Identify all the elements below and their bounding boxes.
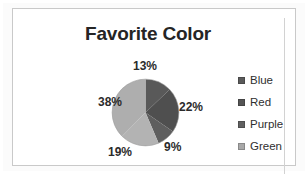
legend-item-label: Blue <box>250 74 273 86</box>
chart-title: Favorite Color <box>43 23 253 45</box>
chart-image: Favorite Color 13% 22% 9% 19% 38% Blue <box>0 0 308 174</box>
pie-data-label-other: 38% <box>98 95 122 109</box>
pie-svg <box>110 77 181 148</box>
legend-swatch-icon <box>238 121 245 128</box>
legend-swatch-icon <box>238 99 245 106</box>
chart-frame: Favorite Color 13% 22% 9% 19% 38% Blue <box>12 8 296 166</box>
pie-data-label-red: 22% <box>179 100 203 114</box>
pie-data-label-blue: 13% <box>133 59 157 73</box>
legend-item-red[interactable]: Red <box>238 91 282 113</box>
chart-legend: Blue Red Purple Green <box>238 69 282 157</box>
legend-item-label: Purple <box>250 118 283 130</box>
legend-item-blue[interactable]: Blue <box>238 69 282 91</box>
legend-item-green[interactable]: Green <box>238 135 282 157</box>
legend-item-label: Red <box>250 96 271 108</box>
legend-swatch-icon <box>238 77 245 84</box>
legend-divider <box>284 18 285 174</box>
legend-item-purple[interactable]: Purple <box>238 113 282 135</box>
pie-chart <box>110 77 181 148</box>
pie-data-label-purple: 9% <box>164 140 181 154</box>
legend-swatch-icon <box>238 143 245 150</box>
legend-item-label: Green <box>250 140 282 152</box>
pie-data-label-green: 19% <box>108 145 132 159</box>
